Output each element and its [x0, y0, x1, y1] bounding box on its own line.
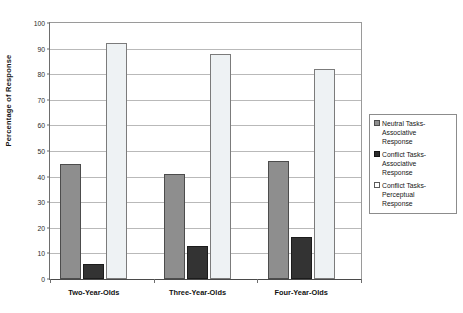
plot-area: 1009080706050403020100 Two-Year-OldsThre…: [49, 22, 362, 280]
x-tick-mark: [154, 279, 155, 283]
y-tick-label: 100: [34, 20, 45, 27]
y-tick-label: 50: [37, 148, 45, 155]
bar: [291, 237, 312, 279]
y-tick-mark: [47, 125, 50, 126]
clipped-title-strip: [0, 0, 463, 10]
y-tick-label: 80: [37, 71, 45, 78]
y-tick-label: 60: [37, 122, 45, 129]
y-tick-mark: [47, 227, 50, 228]
legend-item-label: Conflict Tasks-AssociativeResponse: [382, 150, 426, 177]
y-tick-label: 10: [37, 250, 45, 257]
y-axis-title: Percentage of Response: [4, 31, 13, 171]
bar: [164, 174, 185, 279]
x-category-label: Two-Year-Olds: [68, 288, 119, 297]
bar: [83, 264, 104, 279]
y-tick-label: 0: [41, 276, 45, 283]
gridline: [50, 49, 361, 50]
y-tick-mark: [47, 176, 50, 177]
y-tick-label: 30: [37, 199, 45, 206]
y-tick-label: 90: [37, 45, 45, 52]
legend-item[interactable]: Conflict Tasks-PerceptualResponse: [374, 181, 452, 208]
bar: [60, 164, 81, 279]
legend-swatch-icon: [374, 182, 380, 188]
bar: [210, 54, 231, 279]
legend-swatch-icon: [374, 120, 380, 126]
legend-item[interactable]: Conflict Tasks-AssociativeResponse: [374, 150, 452, 177]
legend-swatch-icon: [374, 151, 380, 157]
y-tick-label: 20: [37, 224, 45, 231]
y-tick-mark: [47, 23, 50, 24]
y-tick-mark: [47, 253, 50, 254]
y-tick-mark: [47, 99, 50, 100]
y-tick-mark: [47, 74, 50, 75]
y-tick-mark: [47, 151, 50, 152]
x-tick-mark: [50, 279, 51, 283]
y-tick-mark: [47, 202, 50, 203]
x-tick-mark: [361, 279, 362, 283]
legend: Neutral Tasks-AssociativeResponseConflic…: [369, 114, 457, 214]
bar-chart: Percentage of Response 10090807060504030…: [0, 0, 463, 313]
x-category-label: Four-Year-Olds: [274, 288, 327, 297]
legend-item-label: Conflict Tasks-PerceptualResponse: [382, 181, 426, 208]
bar: [187, 246, 208, 279]
legend-item[interactable]: Neutral Tasks-AssociativeResponse: [374, 119, 452, 146]
bar: [268, 161, 289, 279]
legend-item-label: Neutral Tasks-AssociativeResponse: [382, 119, 425, 146]
y-tick-label: 70: [37, 96, 45, 103]
bar: [106, 43, 127, 279]
x-tick-mark: [257, 279, 258, 283]
bar: [314, 69, 335, 279]
x-category-label: Three-Year-Olds: [169, 288, 226, 297]
y-tick-mark: [47, 48, 50, 49]
y-tick-label: 40: [37, 173, 45, 180]
